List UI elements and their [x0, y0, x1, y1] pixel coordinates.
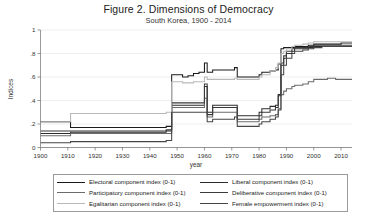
x-tick-group: 1900191019201930194019501960197019801990…	[34, 148, 349, 159]
x-tick-label: 1990	[280, 152, 294, 159]
chart-plot-area: 0.2.4.6.81 19001910192019301940195019601…	[0, 0, 377, 172]
y-tick-label: 0	[32, 144, 36, 151]
legend-swatch-line	[200, 203, 228, 204]
legend-item-label: Female empowerment index (0-1)	[232, 201, 323, 207]
x-tick-label: 1960	[198, 152, 212, 159]
y-tick-label: 1	[32, 26, 36, 33]
legend-grid: Electoral component index (0-1)Liberal c…	[54, 175, 347, 211]
figure-container: Figure 2. Dimensions of Democracy South …	[0, 0, 377, 218]
legend-item-label: Liberal component index (0-1)	[232, 179, 313, 185]
legend-item[interactable]: Participatory component index (0-1)	[57, 188, 200, 199]
series-line	[41, 46, 353, 142]
legend-item-label: Participatory component index (0-1)	[89, 190, 186, 196]
legend-item[interactable]: Female empowerment index (0-1)	[200, 198, 343, 209]
y-tick-label: .6	[30, 73, 36, 80]
legend-item[interactable]: Deliberative component index (0-1)	[200, 188, 343, 199]
x-tick-label: 1980	[252, 152, 266, 159]
x-tick-label: 1970	[225, 152, 239, 159]
x-tick-label: 1930	[116, 152, 130, 159]
legend-item[interactable]: Liberal component index (0-1)	[200, 177, 343, 188]
y-tick-label: .8	[30, 50, 36, 57]
x-tick-label: 2010	[334, 152, 348, 159]
chart-legend: Electoral component index (0-1)Liberal c…	[53, 174, 348, 212]
legend-swatch-line	[57, 182, 85, 183]
legend-swatch-line	[200, 182, 228, 183]
legend-item[interactable]: Egalitarian component index (0-1)	[57, 198, 200, 209]
series-line	[41, 45, 353, 131]
legend-swatch-line	[200, 192, 228, 193]
legend-item-label: Egalitarian component index (0-1)	[89, 201, 180, 207]
series-line	[41, 43, 353, 128]
series-group	[41, 42, 353, 143]
x-tick-label: 1920	[88, 152, 102, 159]
x-tick-label: 1910	[61, 152, 75, 159]
legend-item[interactable]: Electoral component index (0-1)	[57, 177, 200, 188]
y-tick-label: .4	[30, 97, 36, 104]
legend-swatch-line	[57, 203, 85, 204]
legend-swatch-line	[57, 192, 85, 193]
x-tick-label: 1950	[170, 152, 184, 159]
y-axis-title: Indices	[7, 79, 14, 99]
x-axis-title: year	[190, 161, 203, 169]
x-tick-label: 1940	[143, 152, 157, 159]
legend-item-label: Electoral component index (0-1)	[89, 179, 175, 185]
y-tick-label: .2	[30, 120, 36, 127]
series-line	[41, 46, 353, 133]
x-tick-label: 2000	[307, 152, 321, 159]
y-tick-group: 0.2.4.6.81	[30, 26, 40, 151]
legend-item-label: Deliberative component index (0-1)	[232, 190, 327, 196]
x-tick-label: 1900	[34, 152, 48, 159]
